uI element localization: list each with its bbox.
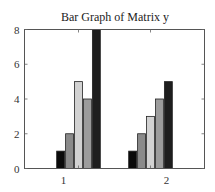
bar-chart: Bar Graph of Matrix y 0246812 — [0, 0, 215, 192]
y-tick-label-0: 0 — [14, 163, 20, 175]
bar-2-4 — [155, 99, 163, 169]
bar-2-2 — [138, 134, 146, 169]
y-tick-label-6: 6 — [14, 58, 20, 70]
x-tick-label-1: 1 — [61, 174, 67, 186]
bar-1-1 — [57, 151, 65, 168]
bar-1-5 — [92, 30, 100, 169]
bars-group — [57, 30, 173, 169]
axes-box — [25, 30, 205, 169]
bar-2-3 — [147, 116, 155, 168]
bar-1-3 — [75, 82, 83, 169]
x-tick-label-2: 2 — [164, 174, 170, 186]
y-tick-label-4: 4 — [14, 93, 20, 105]
bar-1-2 — [66, 134, 74, 169]
y-tick-label-8: 8 — [14, 24, 20, 36]
bar-1-4 — [83, 99, 91, 169]
bar-2-1 — [129, 151, 137, 168]
bar-2-5 — [164, 82, 172, 169]
y-tick-label-2: 2 — [14, 128, 20, 140]
chart-title: Bar Graph of Matrix y — [61, 10, 169, 24]
ticks-group: 0246812 — [14, 24, 205, 186]
